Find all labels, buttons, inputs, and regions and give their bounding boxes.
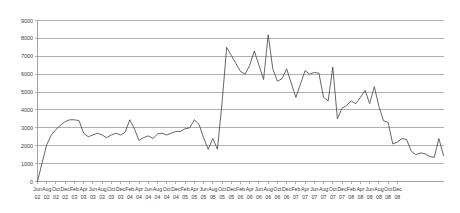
- x-tick-label-year: 08: [348, 194, 354, 200]
- y-tick-label: 7000: [21, 53, 33, 59]
- x-tick-label-month: Dec: [116, 186, 126, 192]
- y-tick-label: 3000: [21, 125, 33, 131]
- x-tick-label-year: 06: [275, 194, 281, 200]
- data-series-line: [38, 35, 444, 182]
- x-tick-label-year: 04: [164, 194, 170, 200]
- x-tick-label-year: 05: [210, 194, 216, 200]
- chart-plot-area: 0100020003000400050006000700080009000 Ju…: [0, 0, 460, 213]
- x-tick-label-year: 04: [145, 194, 151, 200]
- x-tick-label-month: Dec: [337, 186, 347, 192]
- x-tick-label-year: 05: [219, 194, 225, 200]
- x-tick-label-month: Feb: [125, 186, 134, 192]
- x-tick-label-year: 05: [228, 194, 234, 200]
- x-axis-tick-labels: Jun02Aug02Oct02Dec02Feb03Apr03Jun03Aug03…: [33, 186, 402, 200]
- x-tick-label-year: 04: [127, 194, 133, 200]
- x-tick-label-month: Oct: [107, 186, 116, 192]
- x-tick-label-year: 08: [367, 194, 373, 200]
- x-tick-label-month: Oct: [273, 186, 282, 192]
- x-tick-label-year: 03: [108, 194, 114, 200]
- line-chart: 0100020003000400050006000700080009000 Ju…: [0, 0, 460, 213]
- x-tick-label-month: Apr: [356, 186, 364, 192]
- y-tick-label: 0: [30, 179, 33, 185]
- x-tick-label-year: 08: [376, 194, 382, 200]
- x-tick-label-month: Aug: [153, 186, 162, 192]
- x-tick-label-month: Feb: [70, 186, 79, 192]
- x-tick-label-year: 08: [358, 194, 364, 200]
- x-tick-label-month: Oct: [52, 186, 61, 192]
- y-tick-label: 8000: [21, 35, 33, 41]
- x-tick-label-year: 07: [321, 194, 327, 200]
- x-tick-label-month: Aug: [42, 186, 51, 192]
- x-tick-label-year: 02: [53, 194, 59, 200]
- y-tick-label: 4000: [21, 107, 33, 113]
- x-tick-label-year: 08: [394, 194, 400, 200]
- x-tick-label-year: 06: [247, 194, 253, 200]
- x-tick-label-month: Jun: [365, 186, 373, 192]
- x-tick-label-year: 06: [238, 194, 244, 200]
- x-tick-label-month: Aug: [97, 186, 106, 192]
- x-tick-label-month: Aug: [264, 186, 273, 192]
- x-tick-label-month: Apr: [80, 186, 88, 192]
- x-tick-label-year: 07: [311, 194, 317, 200]
- x-tick-label-month: Oct: [218, 186, 227, 192]
- y-tick-label: 6000: [21, 71, 33, 77]
- x-tick-label-year: 02: [62, 194, 68, 200]
- x-tick-label-month: Feb: [236, 186, 245, 192]
- x-tick-label-year: 04: [155, 194, 161, 200]
- x-tick-label-month: Dec: [171, 186, 181, 192]
- x-tick-label-year: 05: [182, 194, 188, 200]
- x-tick-label-month: Dec: [282, 186, 292, 192]
- y-tick-label: 2000: [21, 143, 33, 149]
- x-tick-label-year: 05: [201, 194, 207, 200]
- x-tick-label-year: 02: [35, 194, 41, 200]
- x-tick-label-month: Apr: [190, 186, 198, 192]
- x-tick-label-year: 04: [173, 194, 179, 200]
- x-tick-label-year: 08: [385, 194, 391, 200]
- x-tick-label-year: 02: [44, 194, 50, 200]
- x-tick-label-year: 04: [136, 194, 142, 200]
- x-tick-label-month: Apr: [135, 186, 143, 192]
- x-tick-label-month: Jun: [144, 186, 152, 192]
- y-tick-label: 9000: [21, 18, 33, 24]
- x-tick-label-year: 07: [293, 194, 299, 200]
- x-tick-label-month: Oct: [163, 186, 172, 192]
- x-tick-label-month: Jun: [89, 186, 97, 192]
- x-tick-label-year: 03: [90, 194, 96, 200]
- x-tick-label-year: 03: [118, 194, 124, 200]
- x-tick-label-month: Oct: [329, 186, 338, 192]
- x-tick-label-month: Jun: [33, 186, 41, 192]
- x-tick-label-year: 06: [265, 194, 271, 200]
- x-tick-label-year: 07: [330, 194, 336, 200]
- x-tick-label-year: 03: [99, 194, 105, 200]
- x-tick-label-year: 06: [256, 194, 262, 200]
- x-tick-label-year: 03: [72, 194, 78, 200]
- x-tick-label-month: Feb: [181, 186, 190, 192]
- x-tick-label-month: Apr: [246, 186, 254, 192]
- x-tick-label-month: Jun: [199, 186, 207, 192]
- x-tick-label-month: Dec: [227, 186, 237, 192]
- x-tick-label-month: Apr: [301, 186, 309, 192]
- y-tick-label: 5000: [21, 89, 33, 95]
- x-tick-label-year: 06: [284, 194, 290, 200]
- x-tick-label-month: Dec: [61, 186, 71, 192]
- y-axis-tick-labels: 0100020003000400050006000700080009000: [21, 18, 33, 185]
- x-tick-label-month: Aug: [374, 186, 383, 192]
- x-tick-label-year: 03: [81, 194, 87, 200]
- x-tick-label-year: 07: [339, 194, 345, 200]
- x-tick-label-month: Feb: [291, 186, 300, 192]
- x-tick-label-month: Oct: [384, 186, 393, 192]
- y-tick-label: 1000: [21, 161, 33, 167]
- x-tick-label-month: Dec: [393, 186, 403, 192]
- x-tick-label-month: Aug: [208, 186, 217, 192]
- x-tick-label-month: Jun: [310, 186, 318, 192]
- x-tick-label-month: Jun: [255, 186, 263, 192]
- x-tick-label-year: 07: [302, 194, 308, 200]
- gridlines-group: [35, 21, 444, 182]
- x-tick-label-year: 05: [191, 194, 197, 200]
- x-tick-label-month: Feb: [347, 186, 356, 192]
- x-tick-label-month: Aug: [319, 186, 328, 192]
